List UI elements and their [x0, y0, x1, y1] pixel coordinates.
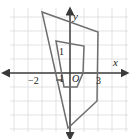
origin-label: O	[72, 74, 79, 84]
x-axis-label: x	[113, 57, 118, 68]
figure-canvas	[0, 0, 131, 139]
y-tick-label-one-above: 1	[59, 47, 64, 57]
y-axis-label: y	[73, 11, 78, 22]
x-tick-label-negative-two: −2	[28, 76, 39, 86]
grid-lines	[10, 8, 128, 132]
coordinate-plane-figure: y x −2 3 1 1 O	[0, 0, 131, 139]
axes	[10, 14, 122, 132]
x-tick-label-three: 3	[96, 76, 101, 86]
y-tick-label-one-below: 1	[59, 74, 64, 84]
